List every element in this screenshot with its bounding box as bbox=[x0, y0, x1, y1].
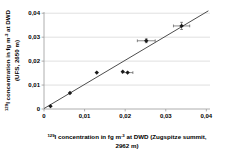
x-tick-label: 0,01 bbox=[79, 113, 91, 119]
y-tick-label: 0,01 bbox=[28, 82, 40, 88]
y-tick-label: 0,04 bbox=[28, 10, 40, 16]
y-tick-label: 0,03 bbox=[28, 34, 40, 40]
x-tick-label: 0,04 bbox=[201, 113, 213, 119]
x-tick-label: 0,02 bbox=[119, 113, 131, 119]
x-axis-label: 129I concentration in fg m-3 at DWD (Zug… bbox=[47, 133, 206, 140]
y-tick-label: 0,02 bbox=[28, 58, 40, 64]
x-tick-label: 0,03 bbox=[160, 113, 172, 119]
chart-svg: 00,010,020,030,0400,010,020,030,04129I c… bbox=[0, 0, 227, 154]
y-axis-label: 129I concentration in fg m-3 at DWD bbox=[4, 9, 11, 111]
x-axis-label-line2: 2962 m) bbox=[115, 142, 138, 149]
y-axis-label-line2: (UFS, 2650 m) bbox=[13, 40, 20, 81]
chart-background bbox=[0, 0, 227, 154]
scatter-plot-figure: 00,010,020,030,0400,010,020,030,04129I c… bbox=[0, 0, 227, 154]
